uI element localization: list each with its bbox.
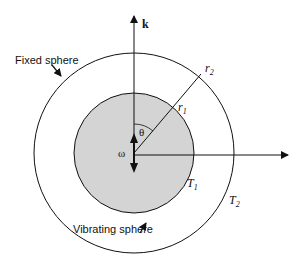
r1-label: r1	[178, 100, 187, 116]
theta-label: θ	[139, 126, 144, 138]
concentric-spheres-diagram: Fixed sphere Vibrating sphere k θ ω r1 r…	[0, 0, 301, 267]
vibrating-sphere-label: Vibrating sphere	[73, 223, 153, 235]
fixed-sphere-pointer	[52, 65, 61, 76]
T1-label: T1	[187, 176, 198, 192]
T2-label: T2	[229, 193, 240, 209]
fixed-sphere-label: Fixed sphere	[15, 54, 79, 66]
omega-label: ω	[118, 147, 125, 159]
r2-label: r2	[205, 61, 214, 77]
k-label: k	[142, 17, 149, 31]
